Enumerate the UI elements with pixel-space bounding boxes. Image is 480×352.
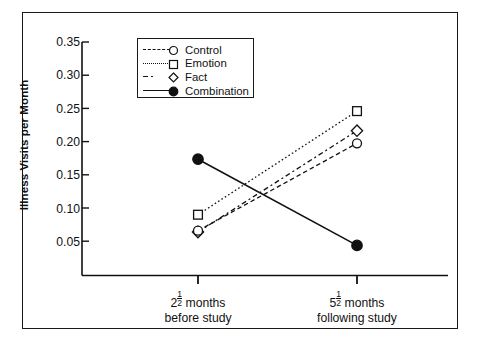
- legend-label-combination: Combination: [185, 85, 249, 97]
- open-circle-icon: [168, 45, 179, 56]
- open-square-icon: [168, 59, 179, 70]
- marker-emotion-following: [353, 107, 362, 116]
- marker-control-before: [194, 226, 203, 235]
- x-axis-ticks: [198, 276, 357, 285]
- legend-item-fact: Fact: [143, 70, 253, 84]
- series-control: [194, 139, 362, 235]
- legend-sample-emotion: [143, 57, 181, 69]
- figure: Illness Visits per Month 0.35 0.30 0.25 …: [0, 0, 480, 352]
- legend-label-fact: Fact: [185, 71, 207, 83]
- legend-label-emotion: Emotion: [185, 57, 227, 69]
- legend-item-control: Control: [143, 43, 253, 57]
- marker-fact-following: [351, 125, 362, 136]
- legend-sample-combination: [143, 85, 181, 97]
- legend-sample-control: [143, 44, 181, 56]
- legend-label-control: Control: [185, 44, 222, 56]
- y-axis-ticks: [82, 42, 89, 241]
- open-diamond-icon: [168, 72, 179, 83]
- legend: Control Emotion Fact Combination: [137, 38, 254, 98]
- marker-combination-before: [193, 154, 203, 164]
- marker-combination-following: [352, 240, 362, 250]
- legend-item-combination: Combination: [143, 84, 253, 98]
- legend-item-emotion: Emotion: [143, 57, 253, 71]
- marker-emotion-before: [194, 210, 203, 219]
- marker-control-following: [353, 139, 362, 148]
- series-fact: [192, 125, 362, 238]
- legend-sample-fact: [143, 71, 181, 83]
- series-combination: [193, 154, 362, 251]
- filled-circle-icon: [168, 86, 179, 97]
